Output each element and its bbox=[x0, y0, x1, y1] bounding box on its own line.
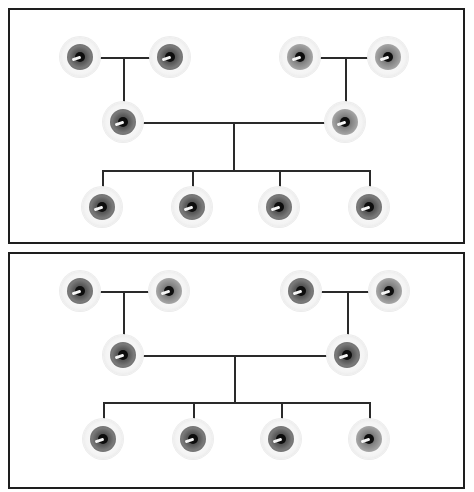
grandparent-eye-left-1 bbox=[60, 271, 100, 311]
child-line bbox=[102, 170, 104, 187]
iris-dark bbox=[268, 426, 294, 452]
parent-eye-1 bbox=[103, 102, 143, 142]
iris-dark bbox=[67, 44, 93, 70]
iris-dark bbox=[334, 342, 360, 368]
child-line bbox=[281, 402, 283, 419]
parent-eye-2 bbox=[327, 335, 367, 375]
child-line bbox=[103, 402, 105, 419]
grandparent-eye-right-2 bbox=[368, 37, 408, 77]
child-eye-2 bbox=[172, 187, 212, 227]
couple-line bbox=[320, 57, 368, 59]
iris-dark bbox=[157, 44, 183, 70]
iris-light bbox=[332, 109, 358, 135]
iris-dark bbox=[110, 109, 136, 135]
descent-line bbox=[233, 122, 235, 170]
grandparent-eye-right-2 bbox=[369, 271, 409, 311]
grandparent-eye-right-1 bbox=[281, 271, 321, 311]
child-line bbox=[279, 170, 281, 187]
iris-light bbox=[287, 44, 313, 70]
parent-eye-1 bbox=[103, 335, 143, 375]
child-eye-3 bbox=[259, 187, 299, 227]
grandparent-eye-right-1 bbox=[280, 37, 320, 77]
child-line bbox=[369, 402, 371, 419]
child-eye-4 bbox=[349, 187, 389, 227]
child-line bbox=[193, 402, 195, 419]
iris-dark bbox=[89, 194, 115, 220]
iris-light bbox=[156, 278, 182, 304]
child-line bbox=[192, 170, 194, 187]
couple-line bbox=[100, 291, 149, 293]
iris-light bbox=[376, 278, 402, 304]
child-eye-1 bbox=[83, 419, 123, 459]
iris-dark bbox=[179, 194, 205, 220]
sibling-line bbox=[103, 402, 369, 404]
iris-dark bbox=[356, 194, 382, 220]
child-eye-4 bbox=[349, 419, 389, 459]
iris-dark bbox=[288, 278, 314, 304]
sibling-line bbox=[102, 170, 369, 172]
descent-line bbox=[123, 57, 125, 102]
iris-dark bbox=[180, 426, 206, 452]
child-line bbox=[369, 170, 371, 187]
child-eye-3 bbox=[261, 419, 301, 459]
couple-line bbox=[321, 291, 369, 293]
grandparent-eye-left-2 bbox=[149, 271, 189, 311]
descent-line bbox=[345, 57, 347, 102]
grandparent-eye-left-1 bbox=[60, 37, 100, 77]
child-eye-2 bbox=[173, 419, 213, 459]
iris-dark bbox=[67, 278, 93, 304]
parent-eye-2 bbox=[325, 102, 365, 142]
iris-dark bbox=[266, 194, 292, 220]
grandparent-eye-left-2 bbox=[150, 37, 190, 77]
iris-dark bbox=[110, 342, 136, 368]
iris-dark bbox=[90, 426, 116, 452]
child-eye-1 bbox=[82, 187, 122, 227]
iris-light bbox=[375, 44, 401, 70]
iris-light bbox=[356, 426, 382, 452]
descent-line bbox=[347, 291, 349, 335]
couple-line bbox=[100, 57, 150, 59]
descent-line bbox=[234, 355, 236, 402]
descent-line bbox=[123, 291, 125, 335]
